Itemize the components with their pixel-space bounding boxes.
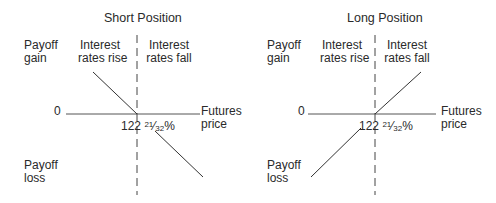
long-futures-price-label: Futuresprice (441, 105, 482, 131)
long-strike-price-label: 122 21⁄32% (359, 118, 413, 135)
long-payoff-gain-label: Payoffgain (267, 39, 301, 65)
long-payoff-loss-label: Payoffloss (267, 159, 301, 185)
short-rates-rise-label: Interestrates rise (78, 39, 122, 65)
short-payoff-line-upper (93, 72, 137, 114)
diagram-lines (0, 0, 496, 203)
short-zero-label: 0 (54, 105, 61, 118)
short-title: Short Position (104, 12, 182, 25)
long-rates-fall-label: Interestrates fall (384, 39, 430, 65)
long-zero-label: 0 (298, 105, 305, 118)
long-rates-rise-label: Interestrates rise (320, 39, 364, 65)
short-payoff-line-lower (155, 131, 203, 177)
long-payoff-line-lower (311, 128, 361, 177)
long-title: Long Position (347, 12, 423, 25)
short-futures-price-label: Futuresprice (201, 105, 242, 131)
long-payoff-line-upper (375, 72, 421, 114)
short-payoff-gain-label: Payoffgain (24, 39, 58, 65)
short-strike-price-label: 122 21⁄32% (121, 118, 175, 135)
short-rates-fall-label: Interestrates fall (146, 39, 192, 65)
short-payoff-loss-label: Payoffloss (24, 159, 58, 185)
